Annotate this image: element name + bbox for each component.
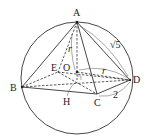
label-C: C	[94, 97, 101, 108]
edge-BE	[22, 72, 58, 87]
arc-r-vertical	[71, 34, 75, 70]
label-B: B	[10, 82, 17, 93]
vertex-point-D	[129, 79, 131, 81]
label-r-horizontal: r	[102, 65, 106, 76]
label-sqrt5: √5	[110, 39, 121, 50]
vertex-point-B	[21, 86, 23, 88]
sphere-pyramid-diagram: A B C D E O H r r √5 2	[0, 0, 148, 139]
edge-AB	[22, 22, 77, 87]
label-edge-2: 2	[113, 89, 118, 100]
diagonal-BD	[22, 80, 130, 87]
label-D: D	[133, 74, 140, 85]
label-r-vertical: r	[68, 43, 72, 54]
label-A: A	[73, 7, 81, 18]
label-E: E	[51, 62, 57, 73]
label-H: H	[63, 96, 70, 107]
right-angle-mark	[77, 76, 81, 80]
center-point-O	[76, 71, 79, 74]
edge-ED	[58, 72, 130, 80]
label-O: O	[63, 62, 70, 73]
vertex-point-A	[76, 21, 79, 24]
